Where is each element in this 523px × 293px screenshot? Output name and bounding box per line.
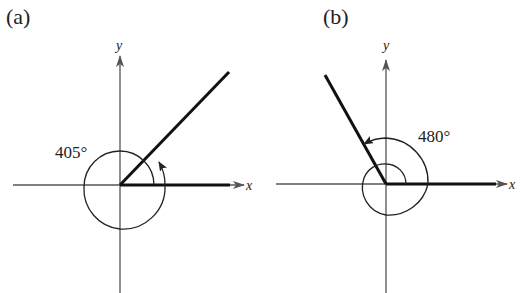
y-axis-label: y	[114, 38, 123, 53]
angle-diagrams: (a) x y 405° (b) x y 480°	[0, 0, 523, 293]
x-axis-label: x	[245, 178, 253, 193]
angle-label-a: 405°	[55, 143, 87, 162]
rotation-arc-480	[362, 138, 428, 215]
angle-label-b: 480°	[418, 127, 450, 146]
terminal-side-ray	[120, 72, 229, 185]
rotation-arc-405	[84, 151, 165, 229]
panel-a-label: (a)	[6, 4, 30, 29]
y-axis-label: y	[381, 38, 390, 53]
panel-b: (b) x y 480°	[276, 4, 516, 293]
panel-a: (a) x y 405°	[6, 4, 253, 293]
terminal-side-ray	[325, 75, 386, 184]
panel-b-label: (b)	[323, 4, 349, 29]
x-axis-label: x	[508, 177, 516, 192]
